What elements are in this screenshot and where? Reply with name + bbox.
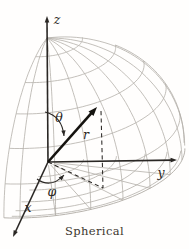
phi-angle-label: φ xyxy=(48,184,57,199)
y-axis-label: y xyxy=(156,165,165,180)
figure-caption: Spherical xyxy=(0,224,189,238)
theta-angle-label: θ xyxy=(55,110,63,125)
z-axis-line xyxy=(47,21,48,162)
latitude-line xyxy=(16,61,144,114)
meridian-line xyxy=(20,38,47,218)
meridian-line xyxy=(47,38,170,175)
y-axis xyxy=(48,158,177,163)
y-axis-line xyxy=(48,160,172,162)
y-axis-arrowhead xyxy=(171,158,178,163)
spherical-diagram-canvas: zyxrθφ xyxy=(0,0,189,249)
z-axis-arrowhead xyxy=(45,16,50,23)
r-vector-label: r xyxy=(83,127,90,142)
x-axis-label: x xyxy=(24,200,31,215)
z-axis-label: z xyxy=(53,12,61,27)
spherical-coordinates-figure: zyxrθφ Spherical xyxy=(0,0,189,249)
sphere-wireframe xyxy=(4,37,185,218)
